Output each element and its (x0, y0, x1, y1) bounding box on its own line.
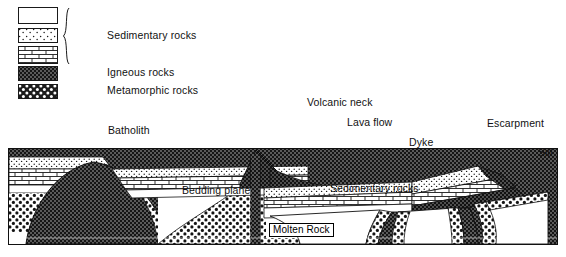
label-batholith: Batholith (108, 124, 150, 136)
swatch-sedimentary-blank (18, 7, 58, 24)
label-sedimentary-rocks: Sedimentary rocks (330, 182, 419, 194)
label-sill: Sill (538, 146, 552, 158)
swatch-sedimentary-limestone (18, 46, 58, 64)
swatch-sedimentary-sandstone (18, 28, 58, 43)
legend: Sedimentary rocks Igneous rocks Metamorp… (0, 0, 300, 108)
curly-brace-icon (62, 8, 72, 64)
label-molten-rock: Molten Rock (269, 223, 334, 237)
swatch-metamorphic (18, 84, 58, 99)
label-dyke: Dyke (409, 136, 433, 148)
legend-label-sedimentary: Sedimentary rocks (107, 29, 197, 41)
label-lava-flow: Lava flow (347, 116, 392, 128)
swatch-igneous (18, 66, 58, 81)
legend-label-igneous: Igneous rocks (107, 66, 174, 78)
volcanic-neck-pipe (251, 154, 260, 244)
label-volcanic-neck: Volcanic neck (307, 96, 373, 108)
legend-label-metamorphic: Metamorphic rocks (107, 84, 198, 96)
figure-root: Sedimentary rocks Igneous rocks Metamorp… (0, 0, 566, 257)
label-escarpment: Escarpment (487, 117, 544, 129)
label-bedding-plane: Bedding plane (182, 184, 250, 196)
